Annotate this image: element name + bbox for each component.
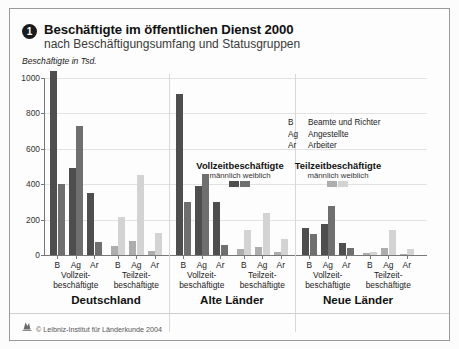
- region-group-label: Alte Länder: [172, 293, 292, 306]
- bar: [237, 249, 244, 255]
- bar: [176, 94, 183, 255]
- bar: [221, 245, 228, 255]
- bar: [255, 247, 262, 255]
- bar: [302, 228, 309, 255]
- bar: [339, 243, 346, 255]
- footer-divider: [10, 313, 449, 314]
- y-axis-tick-mark: [41, 113, 45, 114]
- page-subtitle: nach Beschäftigungsumfang und Statusgrup…: [44, 37, 300, 51]
- x-axis-tick-mark: [328, 256, 329, 259]
- bar: [137, 175, 144, 255]
- x-axis-category-label: Ar: [334, 260, 358, 270]
- bar: [76, 126, 83, 255]
- employment-type-label: Vollzeit-beschäftigte: [41, 271, 111, 290]
- bar: [281, 239, 288, 255]
- legend-status-description: Angestellte: [308, 130, 349, 139]
- legend-status-abbr: Ar: [288, 141, 296, 150]
- employment-line1: Vollzeit-: [187, 270, 216, 280]
- bar: [111, 246, 118, 255]
- gridline: [44, 78, 427, 79]
- x-axis-tick-mark: [407, 256, 408, 259]
- x-axis-tick-mark: [136, 256, 137, 259]
- y-axis-tick-mark: [41, 149, 45, 150]
- institute-logo-icon: [21, 320, 33, 332]
- bar: [407, 249, 414, 255]
- legend-block-title: Teilzeitbeschäftigte: [293, 160, 383, 171]
- x-axis-tick-mark: [57, 256, 58, 259]
- gridline: [44, 220, 427, 221]
- y-axis-unit-label: Beschäftigte in Tsd.: [22, 56, 97, 66]
- x-axis-tick-mark: [370, 256, 371, 259]
- bar: [95, 242, 102, 255]
- employment-type-label: Teilzeit-beschäftigte: [101, 271, 171, 290]
- legend-swatch-female: [338, 181, 348, 187]
- x-axis-tick-mark: [262, 256, 263, 259]
- employment-type-label: Teilzeit-beschäftigte: [353, 271, 423, 290]
- legend-gender-labels: männlich weiblich: [195, 171, 285, 180]
- bar: [87, 193, 94, 255]
- legend-status-abbr: B: [288, 118, 293, 127]
- bar: [184, 202, 191, 255]
- y-axis-tick-label: 600: [26, 144, 40, 154]
- employment-line1: Vollzeit-: [61, 270, 90, 280]
- employment-line1: Teilzeit-: [374, 270, 402, 280]
- bar: [69, 168, 76, 255]
- bar: [148, 251, 155, 255]
- employment-line2: beschäftigte: [114, 280, 159, 290]
- y-axis-tick-mark: [41, 184, 45, 185]
- bar: [263, 213, 270, 255]
- group-separator: [169, 74, 170, 332]
- employment-type-label: Teilzeit-beschäftigte: [227, 271, 297, 290]
- bar: [50, 71, 57, 255]
- bar: [370, 252, 377, 255]
- y-axis-tick-label: 400: [26, 179, 40, 189]
- bar: [129, 241, 136, 255]
- x-axis-tick-mark: [183, 256, 184, 259]
- copyright-text: © Leibniz-Institut für Länderkunde 2004: [36, 325, 162, 334]
- y-axis-tick-label: 800: [26, 108, 40, 118]
- bar: [118, 217, 125, 255]
- bar: [58, 184, 65, 255]
- y-axis-tick-label: 1000: [21, 73, 40, 83]
- employment-line1: Teilzeit-: [248, 270, 276, 280]
- gridline: [44, 113, 427, 114]
- employment-line1: Teilzeit-: [122, 270, 150, 280]
- legend-status-description: Arbeiter: [308, 141, 337, 150]
- employment-line2: beschäftigte: [240, 280, 285, 290]
- bar: [347, 248, 354, 255]
- x-axis-category-label: Ar: [269, 260, 293, 270]
- bar: [310, 234, 317, 255]
- bar: [389, 230, 396, 255]
- bar: [155, 233, 162, 255]
- bar: [381, 248, 388, 255]
- employment-line2: beschäftigte: [366, 280, 411, 290]
- bar: [321, 224, 328, 255]
- bar: [363, 253, 370, 255]
- page-title: Beschäftigte im öffentlichen Dienst 2000: [44, 22, 294, 37]
- y-axis-tick-mark: [41, 255, 45, 256]
- x-axis-tick-mark: [76, 256, 77, 259]
- employment-line2: beschäftigte: [305, 280, 350, 290]
- x-axis-tick-mark: [202, 256, 203, 259]
- legend-block-title: Vollzeitbeschäftigte: [195, 160, 285, 171]
- x-axis-category-label: Ar: [143, 260, 167, 270]
- bar: [274, 252, 281, 255]
- figure-number-badge: 1: [22, 24, 37, 39]
- legend-status-description: Beamte und Richter: [308, 118, 380, 127]
- x-axis-tick-mark: [281, 256, 282, 259]
- legend-swatch-male: [327, 181, 337, 187]
- gridline: [44, 149, 427, 150]
- x-axis-tick-mark: [118, 256, 119, 259]
- employment-line2: beschäftigte: [53, 280, 98, 290]
- x-axis-category-label: Ar: [208, 260, 232, 270]
- bar: [195, 186, 202, 255]
- bar: [244, 230, 251, 255]
- x-axis-tick-mark: [309, 256, 310, 259]
- bar: [400, 254, 407, 255]
- x-axis-tick-mark: [220, 256, 221, 259]
- y-axis-tick-label: 200: [26, 215, 40, 225]
- legend-status-abbr: Ag: [288, 130, 298, 139]
- region-group-label: Deutschland: [46, 293, 166, 306]
- y-axis-tick-mark: [41, 220, 45, 221]
- employment-line2: beschäftigte: [179, 280, 224, 290]
